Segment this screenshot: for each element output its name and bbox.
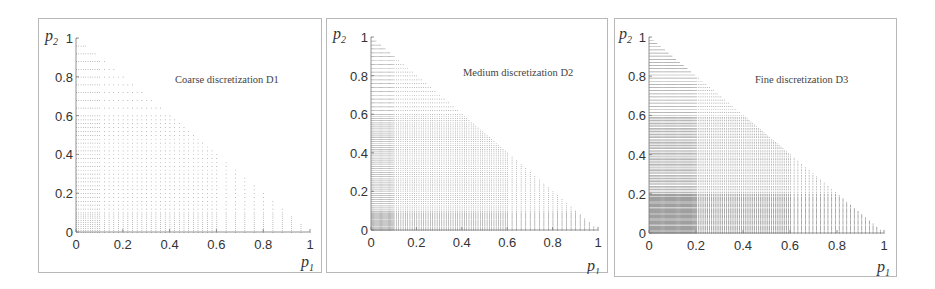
y-tick-label: 1 — [361, 30, 368, 45]
x-tick-label: 0.4 — [453, 235, 471, 250]
x-tick-label: 0.2 — [687, 238, 705, 253]
y-tick-label: 0.8 — [350, 69, 368, 84]
x-tick-label: 0.8 — [254, 237, 272, 252]
data-points — [649, 37, 885, 234]
y-tick-label: 1 — [66, 31, 73, 46]
x-tick-label: 1 — [880, 238, 887, 253]
x-axis-label: p1 — [300, 253, 314, 273]
x-tick-label: 0 — [367, 235, 374, 250]
x-tick-label: 0.8 — [544, 235, 562, 250]
chart-panel-coarse-d1: 00.20.40.60.8100.20.40.60.81 Coarse disc… — [38, 18, 322, 273]
y-tick-label: 0 — [639, 226, 646, 241]
x-tick-label: 0.6 — [207, 237, 225, 252]
panel-title: Coarse discretization D1 — [175, 74, 279, 85]
panel-title: Fine discretization D3 — [755, 74, 848, 85]
x-tick-label: 0.2 — [407, 235, 425, 250]
y-axis-label: p2 — [332, 25, 346, 45]
scatter-plot-d1: 00.20.40.60.8100.20.40.60.81 Coarse disc… — [39, 19, 323, 274]
y-tick-label: 0.4 — [628, 148, 646, 163]
y-tick-label: 0.4 — [55, 147, 73, 162]
y-tick-label: 0.6 — [628, 108, 646, 123]
y-tick-label: 1 — [639, 30, 646, 45]
x-axis-label: p1 — [586, 257, 600, 274]
x-tick-label: 0.6 — [781, 238, 799, 253]
y-tick-label: 0.6 — [55, 109, 73, 124]
x-axis-label: p1 — [876, 258, 890, 278]
y-tick-label: 0.2 — [350, 184, 368, 199]
y-tick-label: 0.6 — [350, 107, 368, 122]
x-tick-label: 0.6 — [498, 235, 516, 250]
y-axis-label: p2 — [618, 25, 632, 45]
y-tick-label: 0.2 — [55, 186, 73, 201]
panel-title: Medium discretization D2 — [463, 67, 573, 78]
data-points — [76, 38, 311, 233]
scatter-plot-d3: 00.20.40.60.8100.20.40.60.81 Fine discre… — [615, 19, 898, 278]
x-tick-label: 0.2 — [114, 237, 132, 252]
x-tick-label: 1 — [306, 237, 313, 252]
x-tick-label: 1 — [594, 235, 601, 250]
y-axis-label: p2 — [44, 27, 58, 47]
y-tick-label: 0 — [361, 223, 368, 238]
y-tick-label: 0.4 — [350, 146, 368, 161]
x-tick-label: 0 — [645, 238, 652, 253]
y-tick-label: 0.8 — [55, 70, 73, 85]
x-tick-label: 0 — [72, 237, 79, 252]
y-tick-label: 0.2 — [628, 187, 646, 202]
x-tick-label: 0.8 — [828, 238, 846, 253]
y-tick-label: 0 — [66, 225, 73, 240]
chart-panel-medium-d2: 00.20.40.60.8100.20.40.60.81 Medium disc… — [326, 18, 608, 273]
scatter-plot-d2: 00.20.40.60.8100.20.40.60.81 Medium disc… — [327, 19, 609, 274]
chart-panel-fine-d3: 00.20.40.60.8100.20.40.60.81 Fine discre… — [614, 18, 897, 277]
x-tick-label: 0.4 — [161, 237, 179, 252]
x-tick-label: 0.4 — [734, 238, 752, 253]
y-tick-label: 0.8 — [628, 69, 646, 84]
